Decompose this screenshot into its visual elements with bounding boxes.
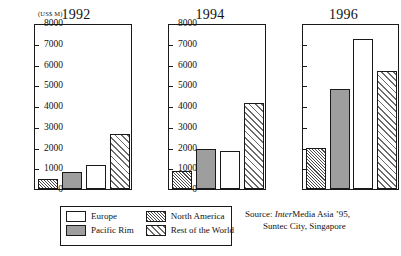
bar: [38, 179, 58, 189]
y-tick-label: 7000: [44, 40, 63, 50]
y-axis-tick: [35, 86, 39, 87]
legend-swatch-icon: [66, 211, 86, 222]
y-axis-tick: [35, 128, 39, 129]
source-line2: Suntec City, Singapore: [245, 220, 397, 232]
y-axis-labels-1994: 800070006000500040003000200010000: [134, 0, 164, 200]
y-tick-label: 8000: [178, 19, 197, 29]
y-tick-label: 1000: [44, 165, 63, 175]
bar: [220, 151, 240, 189]
legend-label: Pacific Rim: [91, 226, 134, 235]
legend-label: Rest of the World: [171, 226, 234, 235]
y-tick-label: 4000: [178, 102, 197, 112]
chart-figure: 1992 (US$ M) 800070006000500040003000200…: [0, 0, 401, 256]
source-prefix: Source:: [245, 209, 275, 219]
y-axis-tick: [303, 128, 307, 129]
y-axis-tick: [169, 169, 173, 170]
plot-area-1996: [302, 24, 399, 190]
y-axis-tick: [303, 86, 307, 87]
y-tick-label: 3000: [44, 123, 63, 133]
bar: [62, 172, 82, 189]
y-axis-tick: [169, 128, 173, 129]
bar: [377, 71, 397, 189]
legend-item: Pacific Rim: [66, 225, 134, 236]
chart-panel-1994: 1994 800070006000500040003000200010000: [134, 0, 268, 200]
y-axis-tick: [303, 45, 307, 46]
y-tick-label: 6000: [44, 61, 63, 71]
panel-title-1996: 1996: [286, 7, 401, 23]
y-axis-labels-1992: 800070006000500040003000200010000: [0, 0, 30, 200]
source-note: Source: InterMedia Asia ’95, Suntec City…: [245, 208, 397, 232]
legend-item: North America: [146, 211, 234, 222]
y-axis-tick: [169, 45, 173, 46]
chart-panel-1992: 1992 (US$ M) 800070006000500040003000200…: [0, 0, 134, 200]
y-axis-tick: [35, 107, 39, 108]
y-axis-tick: [35, 45, 39, 46]
legend-label: North America: [171, 212, 225, 221]
legend-swatch-icon: [66, 225, 86, 236]
y-axis-tick: [169, 86, 173, 87]
y-tick-label: 8000: [44, 19, 63, 29]
chart-legend: EuropeNorth AmericaPacific RimRest of th…: [60, 206, 232, 246]
y-axis-tick: [35, 169, 39, 170]
legend-swatch-icon: [146, 225, 166, 236]
legend-swatch-icon: [146, 211, 166, 222]
y-tick-label: 5000: [178, 82, 197, 92]
y-axis-tick: [303, 66, 307, 67]
y-axis-tick: [303, 169, 307, 170]
y-tick-label: 6000: [178, 61, 197, 71]
y-tick-label: 2000: [44, 144, 63, 154]
y-tick-label: 5000: [44, 82, 63, 92]
y-tick-label: 0: [58, 185, 63, 195]
panel-title-1992: 1992: [18, 7, 134, 23]
y-axis-unit-label: (US$ M): [38, 10, 63, 17]
y-tick-label: 1000: [178, 165, 197, 175]
source-italic: Inter: [275, 209, 293, 219]
bar: [196, 149, 216, 189]
bar: [353, 39, 373, 189]
bar-group-1996: [303, 25, 398, 189]
y-axis-tick: [169, 107, 173, 108]
bar: [330, 89, 350, 189]
bar: [172, 171, 192, 189]
legend-label: Europe: [91, 212, 117, 221]
bar: [244, 103, 264, 189]
source-rest: Media Asia ’95,: [292, 209, 350, 219]
y-axis-tick: [169, 66, 173, 67]
y-tick-label: 3000: [178, 123, 197, 133]
legend-item: Europe: [66, 211, 134, 222]
panel-title-1994: 1994: [152, 7, 268, 23]
y-axis-tick: [169, 149, 173, 150]
y-tick-label: 7000: [178, 40, 197, 50]
chart-panel-1996: 1996 800070006000500040003000200010000: [268, 0, 401, 200]
y-axis-tick: [303, 107, 307, 108]
y-tick-label: 0: [192, 185, 197, 195]
y-tick-label: 4000: [44, 102, 63, 112]
y-axis-tick: [35, 149, 39, 150]
legend-item: Rest of the World: [146, 225, 234, 236]
y-axis-tick: [303, 149, 307, 150]
y-axis-labels-1996: 800070006000500040003000200010000: [268, 0, 298, 200]
y-axis-tick: [35, 66, 39, 67]
bar: [110, 134, 130, 189]
bar: [306, 148, 326, 190]
bar: [86, 165, 106, 189]
y-tick-label: 2000: [178, 144, 197, 154]
